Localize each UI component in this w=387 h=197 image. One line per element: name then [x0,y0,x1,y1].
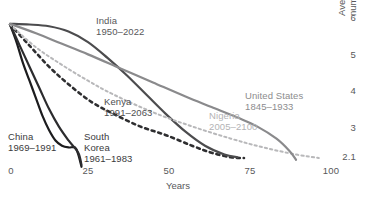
x-tick-100: 100 [316,165,346,176]
series-label-china-name: China [8,131,56,142]
x-tick-50: 50 [154,165,184,176]
series-label-south-korea-name2: Korea [84,142,132,153]
series-label-united-states: United States 1845–1933 [245,90,303,112]
series-label-kenya: Kenya 1991–2063 [104,96,152,118]
x-tick-25: 25 [73,165,103,176]
y-tick-4: 4 [332,85,356,96]
series-label-nigeria-period: 2005–2100 [209,121,257,132]
y-axis-title-line2: number of children [347,0,358,16]
series-label-nigeria: Nigeria 2005–2100 [209,110,257,132]
series-label-united-states-period: 1845–1933 [245,101,303,112]
x-axis-title: Years [148,180,208,191]
y-tick-3: 3 [332,122,356,133]
series-label-china-period: 1969–1991 [8,142,56,153]
series-label-kenya-name: Kenya [104,96,152,107]
series-label-kenya-period: 1991–2063 [104,107,152,118]
y-tick-2.1: 2.1 [332,151,356,162]
series-label-south-korea: South Korea 1961–1983 [84,131,132,164]
series-label-india: India 1950–2022 [96,15,144,37]
series-label-india-name: India [96,15,144,26]
x-tick-75: 75 [235,165,265,176]
x-tick-0: 0 [0,165,26,176]
fertility-decline-chart: 0 25 50 75 100 6 5 4 3 2.1 Years Average… [0,0,387,197]
series-label-south-korea-name1: South [84,131,132,142]
series-label-south-korea-period: 1961–1983 [84,153,132,164]
y-axis-title-line1: Average fertility per woman, [336,0,347,16]
y-tick-5: 5 [332,49,356,60]
series-label-united-states-name: United States [245,90,303,101]
series-label-china: China 1969–1991 [8,131,56,153]
y-axis-title: Average fertility per woman, number of c… [336,0,358,16]
series-label-india-period: 1950–2022 [96,26,144,37]
